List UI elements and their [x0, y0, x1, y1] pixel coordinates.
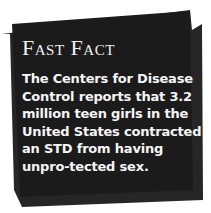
fast-fact-title: Fast Fact: [22, 35, 202, 61]
fast-fact-body: The Centers for Disease Control reports …: [22, 70, 202, 175]
fast-fact-box: Fast Fact The Centers for Disease Contro…: [22, 35, 202, 175]
